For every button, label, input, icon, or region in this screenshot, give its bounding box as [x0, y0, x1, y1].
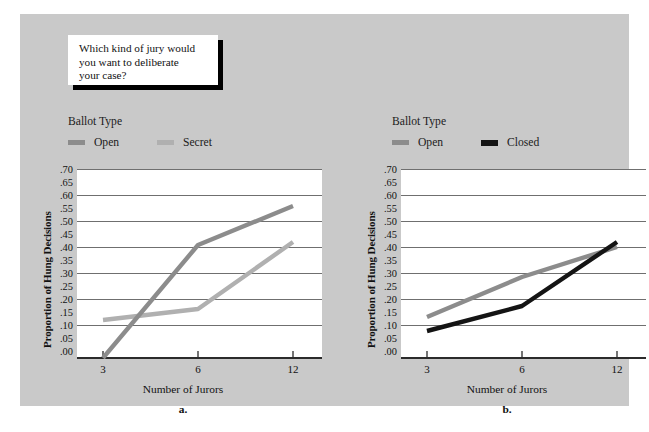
y-tick-b-14: .00	[370, 346, 397, 357]
y-tick-a-12: .10	[46, 320, 73, 331]
y-tick-a-4: .50	[46, 216, 73, 227]
y-tick-b-13: .05	[370, 333, 397, 344]
y-tick-b-11: .15	[370, 307, 397, 318]
legend-label-secret-a: Secret	[183, 136, 212, 149]
y-tick-a-3: .55	[46, 203, 73, 214]
y-tick-b-1: .65	[370, 177, 397, 188]
y-tick-b-10: .20	[370, 294, 397, 305]
legend-swatch-secret-a	[157, 140, 174, 145]
x-axis-label-a: Number of Jurors	[113, 383, 253, 395]
plot-background-b	[401, 169, 646, 359]
y-tick-a-0: .70	[46, 164, 73, 175]
legend-title-a: Ballot Type	[68, 115, 122, 128]
panel-a: Ballot Type Open Secret Proportion of Hu…	[20, 14, 340, 406]
legend-label-open-b: Open	[418, 136, 443, 149]
y-tick-b-6: .40	[370, 242, 397, 253]
y-tick-a-7: .35	[46, 255, 73, 266]
y-tick-a-9: .25	[46, 281, 73, 292]
y-tick-a-2: .60	[46, 190, 73, 201]
y-tick-a-8: .30	[46, 268, 73, 279]
plot-background-a	[77, 169, 322, 359]
legend-swatch-open-b	[392, 140, 409, 145]
x-tick-a-0: 3	[88, 363, 118, 375]
figure-container: Which kind of jury would you want to del…	[20, 14, 629, 406]
legend-title-b: Ballot Type	[392, 115, 446, 128]
y-tick-a-6: .40	[46, 242, 73, 253]
y-tick-b-3: .55	[370, 203, 397, 214]
chart-svg-b	[401, 169, 646, 359]
panel-b: Ballot Type Open Closed Proportion of Hu…	[328, 14, 629, 406]
chart-svg-a	[77, 169, 322, 359]
panel-letter-a: a.	[163, 403, 203, 415]
panel-letter-b: b.	[487, 403, 527, 415]
y-tick-b-8: .30	[370, 268, 397, 279]
y-tick-a-11: .15	[46, 307, 73, 318]
plot-area-b	[401, 169, 646, 359]
y-tick-b-9: .25	[370, 281, 397, 292]
y-tick-b-0: .70	[370, 164, 397, 175]
legend-item-secret-a[interactable]: Secret	[157, 136, 212, 149]
y-tick-a-14: .00	[46, 346, 73, 357]
legend-item-open-b[interactable]: Open	[392, 136, 443, 149]
y-tick-a-10: .20	[46, 294, 73, 305]
x-tick-a-2: 12	[278, 363, 308, 375]
x-axis-label-b: Number of Jurors	[437, 383, 577, 395]
y-tick-a-1: .65	[46, 177, 73, 188]
x-tick-a-1: 6	[183, 363, 213, 375]
y-tick-b-4: .50	[370, 216, 397, 227]
y-tick-b-7: .35	[370, 255, 397, 266]
y-tick-a-13: .05	[46, 333, 73, 344]
legend-label-closed-b: Closed	[507, 136, 539, 149]
legend-item-closed-b[interactable]: Closed	[481, 136, 539, 149]
legend-swatch-closed-b	[481, 140, 498, 146]
legend-item-open-a[interactable]: Open	[68, 136, 119, 149]
y-tick-b-5: .45	[370, 229, 397, 240]
plot-area-a	[77, 169, 322, 359]
x-tick-b-2: 12	[602, 363, 632, 375]
legend-swatch-open-a	[68, 140, 85, 145]
y-tick-b-2: .60	[370, 190, 397, 201]
y-tick-a-5: .45	[46, 229, 73, 240]
y-tick-b-12: .10	[370, 320, 397, 331]
legend-label-open-a: Open	[94, 136, 119, 149]
x-tick-b-0: 3	[412, 363, 442, 375]
x-tick-b-1: 6	[507, 363, 537, 375]
